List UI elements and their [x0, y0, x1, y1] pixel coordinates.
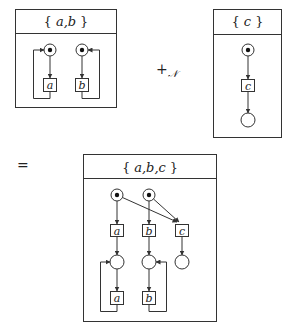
- net-c-title: {c}: [232, 14, 264, 29]
- transition-b-label: b: [78, 79, 85, 92]
- transition-a-top-label: a: [114, 225, 121, 238]
- transition-c-label: c: [245, 80, 251, 93]
- composition-operator: +𝒩: [156, 61, 181, 79]
- token-icon: [48, 48, 52, 52]
- place-p5: [175, 255, 189, 269]
- token-icon: [115, 193, 119, 197]
- net-abc: {a,b,c} a b c a b: [84, 155, 217, 322]
- net-ab: {a,b} a b: [16, 10, 117, 108]
- token-icon: [80, 48, 84, 52]
- transition-a-bottom-label: a: [114, 292, 121, 305]
- petri-net-diagram: {a,b} a b +𝒩 {c} c =: [0, 0, 295, 335]
- transition-b-top-label: b: [145, 225, 152, 238]
- output-place-c: [241, 113, 255, 127]
- transition-b-bottom-label: b: [145, 292, 152, 305]
- equals-sign: =: [17, 157, 29, 173]
- token-icon: [147, 193, 151, 197]
- net-ab-title: {a,b}: [44, 14, 89, 29]
- transition-a-label: a: [47, 79, 54, 92]
- place-p4: [142, 255, 156, 269]
- net-c: {c} c: [214, 10, 282, 138]
- transition-c-top-label: c: [179, 225, 185, 238]
- token-icon: [246, 48, 250, 52]
- place-p3: [110, 255, 124, 269]
